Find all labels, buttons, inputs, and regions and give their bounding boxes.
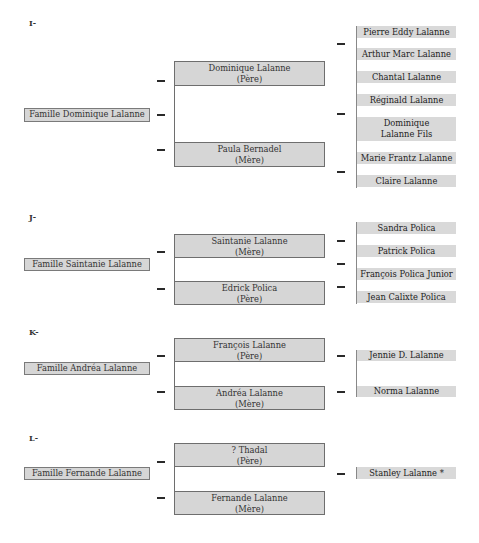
parent-name: Fernande Lalanne xyxy=(175,493,324,504)
parent-name: ? Thadal xyxy=(175,445,324,456)
family-box: Famille Andréa Lalanne xyxy=(24,362,150,375)
parent-role: (Père) xyxy=(175,294,324,305)
child-box: Chantal Lalanne xyxy=(357,71,456,83)
parent-box-father: Edrick Polica (Père) xyxy=(174,281,325,305)
parent-box-mother: Saintanie Lalanne (Mère) xyxy=(174,234,325,258)
parent-name: François Lalanne xyxy=(175,340,324,351)
connector-dash xyxy=(157,461,165,463)
child-box: Jennie D. Lalanne xyxy=(357,350,456,361)
connector-dash xyxy=(337,473,345,475)
parent-role: (Mère) xyxy=(175,247,324,258)
child-box: Norma Lalanne xyxy=(357,386,456,397)
connector-dash xyxy=(337,391,345,393)
parent-name: Saintanie Lalanne xyxy=(175,236,324,247)
connector-dash xyxy=(337,355,345,357)
parent-box-mother: Paula Bernadel (Mère) xyxy=(174,142,325,167)
family-box: Famille Fernande Lalanne xyxy=(24,467,150,480)
parent-role: (Mère) xyxy=(175,155,324,166)
connector-dash xyxy=(157,149,165,151)
section-label: K- xyxy=(29,327,39,337)
parent-box-mother: Andréa Lalanne (Mère) xyxy=(174,386,325,410)
connector-dash xyxy=(157,288,165,290)
parent-name: Dominique Lalanne xyxy=(175,63,324,74)
section-label: I- xyxy=(29,18,36,28)
child-box: Patrick Polica xyxy=(357,245,456,257)
child-box: Pierre Eddy Lalanne xyxy=(357,26,456,38)
parent-role: (Mère) xyxy=(175,399,324,410)
connector-dash xyxy=(157,80,165,82)
connector-dash xyxy=(337,263,345,265)
child-box: Stanley Lalanne * xyxy=(357,467,456,479)
child-box: Dominique Lalanne Fils xyxy=(357,117,456,141)
parent-name: Andréa Lalanne xyxy=(175,388,324,399)
child-box: Jean Calixte Polica xyxy=(357,291,456,303)
family-box: Famille Dominique Lalanne xyxy=(24,108,150,122)
connector-dash xyxy=(157,114,165,116)
connector-dash xyxy=(337,113,345,115)
child-box: Réginald Lalanne xyxy=(357,94,456,106)
section-label: J- xyxy=(29,212,36,222)
section-label: L- xyxy=(29,433,38,443)
child-box: Marie Frantz Lalanne xyxy=(357,152,456,164)
parent-name: Edrick Polica xyxy=(175,283,324,294)
connector-dash xyxy=(337,171,345,173)
connector-dash xyxy=(157,355,165,357)
connector-dash xyxy=(157,251,165,253)
parent-box-father: Dominique Lalanne (Père) xyxy=(174,61,325,86)
parent-role: (Mère) xyxy=(175,504,324,515)
child-box: François Polica Junior xyxy=(357,268,456,280)
child-box: Arthur Marc Lalanne xyxy=(357,48,456,60)
connector-dash xyxy=(157,391,165,393)
connector-dash xyxy=(337,43,345,45)
parent-box-mother: Fernande Lalanne (Mère) xyxy=(174,491,325,515)
parent-box-father: ? Thadal (Père) xyxy=(174,443,325,467)
parent-role: (Père) xyxy=(175,351,324,362)
parent-role: (Père) xyxy=(175,74,324,85)
child-box: Claire Lalanne xyxy=(357,175,456,187)
parent-box-father: François Lalanne (Père) xyxy=(174,338,325,362)
child-box: Sandra Polica xyxy=(357,222,456,234)
parent-name: Paula Bernadel xyxy=(175,144,324,155)
connector-dash xyxy=(337,286,345,288)
connector-dash xyxy=(157,497,165,499)
connector-dash xyxy=(337,240,345,242)
parent-role: (Père) xyxy=(175,456,324,467)
family-box: Famille Saintanie Lalanne xyxy=(24,258,150,271)
